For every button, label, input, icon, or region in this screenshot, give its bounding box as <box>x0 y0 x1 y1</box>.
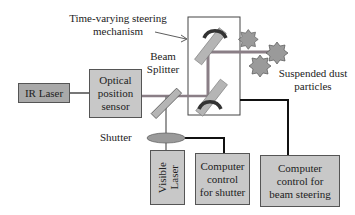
box-line: sensor <box>101 100 129 113</box>
box-line: beam steering <box>269 188 330 201</box>
box-line: Optical <box>99 74 131 87</box>
label-line: particles <box>268 80 355 93</box>
box-line: Computer <box>201 160 245 173</box>
box-line: for shutter <box>200 186 246 199</box>
label-line: mechanism <box>62 25 174 38</box>
shutter-label: Shutter <box>100 131 132 144</box>
dust-particle-icon <box>266 42 288 64</box>
label-line: Time-varying steering <box>62 12 174 25</box>
visible-laser-box: Visible Laser <box>150 150 185 205</box>
steering-control-wire <box>240 100 288 155</box>
box-line: Visible <box>156 162 168 193</box>
box-line: Laser <box>168 165 180 189</box>
beam-steering-control-box: Computer control for beam steering <box>260 155 340 207</box>
label-line: Beam <box>140 50 186 63</box>
dust-particle-icon <box>238 30 258 50</box>
shutter-disc <box>147 133 185 143</box>
box-line: position <box>98 87 133 100</box>
shutter-control-box: Computer control for shutter <box>195 153 250 205</box>
dust-particles-label: Suspended dust particles <box>268 67 355 93</box>
label-line: Splitter <box>140 63 186 76</box>
label-line: Suspended dust <box>268 67 355 80</box>
box-line: control for <box>277 175 324 188</box>
steering-mechanism-label: Time-varying steering mechanism <box>62 12 174 38</box>
shutter-control-wire <box>185 138 224 153</box>
beam-splitter-label: Beam Splitter <box>140 50 186 76</box>
box-line: control <box>207 173 238 186</box>
ir-laser-box: IR Laser <box>18 83 70 103</box>
optical-position-sensor-box: Optical position sensor <box>89 69 142 118</box>
box-line: Computer <box>278 162 322 175</box>
